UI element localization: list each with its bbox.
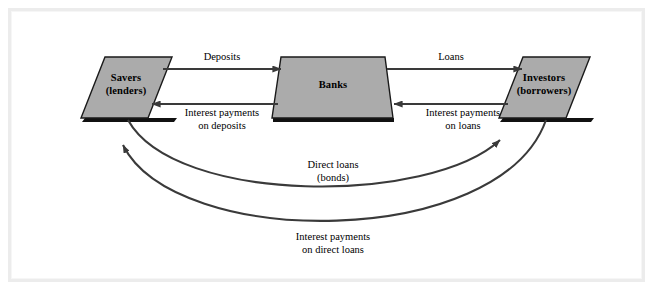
curve-interest-on-direct-loans	[123, 120, 546, 221]
node-investors[interactable]	[499, 57, 590, 118]
curve-direct-loans	[128, 120, 500, 187]
investors-shape[interactable]	[499, 57, 590, 118]
figure-root: Savers (lenders) Banks Investors (borrow…	[0, 0, 653, 290]
diagram-canvas	[0, 0, 653, 290]
node-savers[interactable]	[81, 57, 172, 118]
node-banks[interactable]	[272, 57, 393, 118]
banks-shape[interactable]	[272, 57, 393, 118]
savers-shape[interactable]	[81, 57, 172, 118]
